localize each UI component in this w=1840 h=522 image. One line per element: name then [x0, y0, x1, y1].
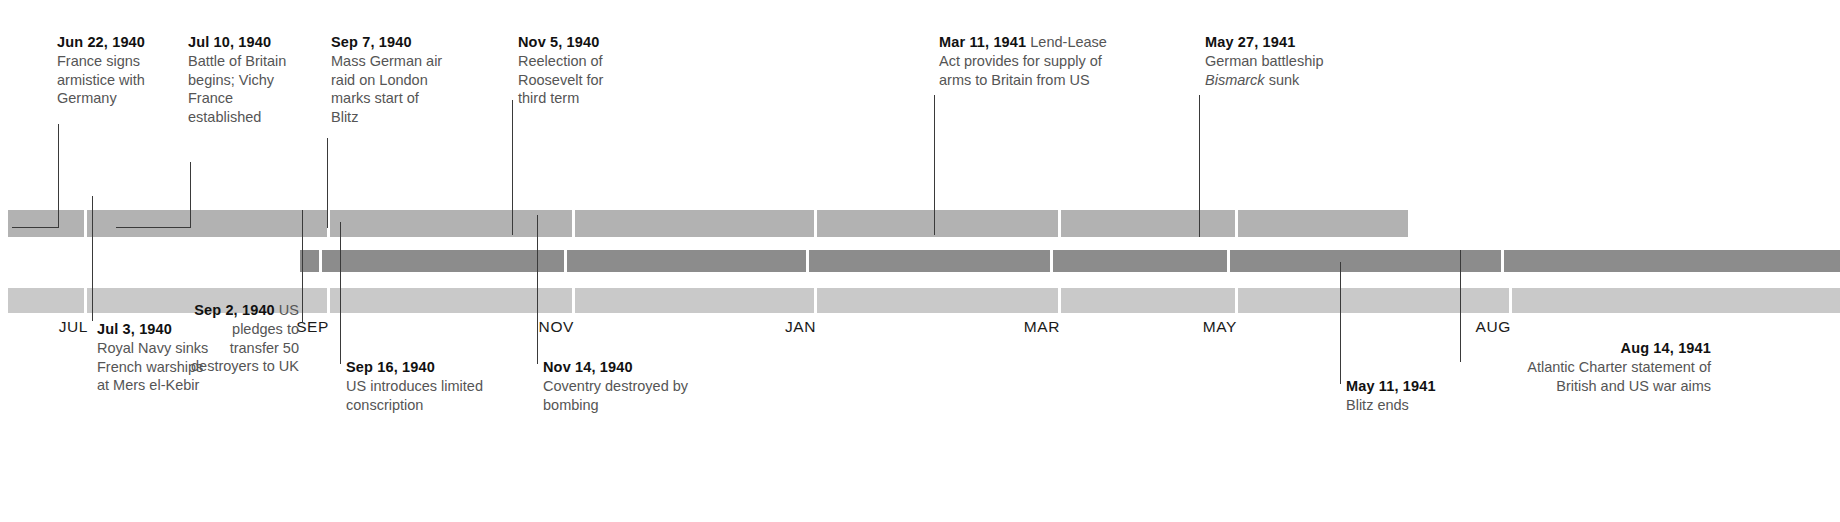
event-note-aug-14-1941: Aug 14, 1941 Atlantic Charter statement … [1525, 339, 1711, 395]
band-tick [1235, 288, 1238, 313]
axis-tick-label-aug: AUG [1432, 318, 1511, 336]
event-date-may-27-1941: May 27, 1941 [1205, 34, 1295, 50]
band-tick [327, 288, 330, 313]
event-date-nov-5-1940: Nov 5, 1940 [518, 34, 599, 50]
leader-line-jul-3-1940 [92, 196, 93, 321]
event-note-nov-5-1940: Nov 5, 1940 Reelection of Roosevelt for … [518, 33, 630, 108]
event-date-aug-14-1941: Aug 14, 1941 [1621, 340, 1711, 356]
event-note-sep-16-1940: Sep 16, 1940 US introduces limited consc… [346, 358, 532, 414]
leader-line-sep-2-1940 [302, 210, 303, 322]
band-tick [814, 210, 817, 237]
band-tick [84, 210, 87, 237]
event-date-sep-7-1940: Sep 7, 1940 [331, 34, 412, 50]
event-text-sep-7-1940: Mass German air raid on London marks sta… [331, 53, 442, 125]
leader-line-mar-11-1941 [934, 95, 935, 235]
event-note-sep-2-1940: Sep 2, 1940 US pledges to transfer 50 de… [188, 301, 299, 376]
band-tick [1058, 288, 1061, 313]
leader-line-nov-14-1940 [537, 215, 538, 364]
timeline-chart: JUL SEP NOV JAN MAR MAY AUG Jun 22, 1940… [0, 0, 1840, 522]
leader-elbow-jul-10-1940 [116, 227, 191, 228]
axis-tick-label-mar: MAR [981, 318, 1060, 336]
leader-line-may-27-1941 [1199, 95, 1200, 237]
band-tick [572, 210, 575, 237]
event-date-nov-14-1940: Nov 14, 1940 [543, 359, 633, 375]
leader-elbow-jun-22-1940 [12, 227, 59, 228]
event-date-sep-2-1940: Sep 2, 1940 [194, 302, 275, 318]
event-text-nov-5-1940: Reelection of Roosevelt for third term [518, 53, 603, 107]
event-note-sep-7-1940: Sep 7, 1940 Mass German air raid on Lond… [331, 33, 443, 127]
event-date-mar-11-1941: Mar 11, 1941 [939, 34, 1026, 50]
axis-tick-label-nov: NOV [495, 318, 574, 336]
event-note-may-11-1941: May 11, 1941 Blitz ends [1346, 377, 1532, 415]
event-text-jun-22-1940: France signs armistice with Germany [57, 53, 145, 107]
band-tick [84, 288, 87, 313]
band-tick [806, 250, 809, 272]
leader-line-nov-5-1940 [512, 100, 513, 235]
leader-line-sep-16-1940 [340, 222, 341, 364]
band-tick [564, 250, 567, 272]
band-tick [814, 288, 817, 313]
event-note-jul-10-1940: Jul 10, 1940 Battle of Britain begins; V… [188, 33, 300, 127]
leader-line-aug-14-1941 [1460, 250, 1461, 362]
event-date-jul-3-1940: Jul 3, 1940 [97, 321, 172, 337]
leader-line-may-11-1941 [1340, 262, 1341, 384]
event-note-mar-11-1941: Mar 11, 1941 Lend-Lease Act provides for… [939, 33, 1125, 89]
event-note-jun-22-1940: Jun 22, 1940 France signs armistice with… [57, 33, 169, 108]
band-tick [319, 250, 322, 272]
event-text-may-11-1941: Blitz ends [1346, 397, 1409, 413]
band-tick [1058, 210, 1061, 237]
leader-line-jul-10-1940 [190, 162, 191, 228]
event-note-may-27-1941: May 27, 1941 German battleship Bismarck … [1205, 33, 1355, 89]
band-tick [572, 288, 575, 313]
event-date-sep-16-1940: Sep 16, 1940 [346, 359, 435, 375]
event-text-nov-14-1940: Coventry destroyed by bombing [543, 378, 688, 413]
band-tick [1235, 210, 1238, 237]
leader-line-jun-22-1940 [58, 124, 59, 228]
event-text-tail-may-27-1941: sunk [1265, 72, 1300, 88]
band-tick [1501, 250, 1504, 272]
event-text-sep-16-1940: US introduces limited conscription [346, 378, 483, 413]
band-tick [1227, 250, 1230, 272]
event-date-jun-22-1940: Jun 22, 1940 [57, 34, 145, 50]
band-tick [1050, 250, 1053, 272]
axis-tick-label-may: MAY [1158, 318, 1237, 336]
leader-line-sep-7-1940 [327, 138, 328, 228]
event-text-italic-may-27-1941: Bismarck [1205, 72, 1265, 88]
event-text-may-27-1941: German battleship [1205, 53, 1323, 69]
event-date-jul-10-1940: Jul 10, 1940 [188, 34, 271, 50]
timeline-band-top [8, 210, 1408, 237]
axis-tick-label-jul: JUL [12, 318, 88, 336]
event-note-nov-14-1940: Nov 14, 1940 Coventry destroyed by bombi… [543, 358, 729, 414]
axis-tick-label-jan: JAN [737, 318, 816, 336]
event-text-aug-14-1941: Atlantic Charter statement of British an… [1527, 359, 1711, 394]
band-tick [1509, 288, 1512, 313]
event-text-jul-10-1940: Battle of Britain begins; Vichy France e… [188, 53, 286, 125]
event-date-may-11-1941: May 11, 1941 [1346, 378, 1436, 394]
timeline-band-middle [300, 250, 1840, 272]
